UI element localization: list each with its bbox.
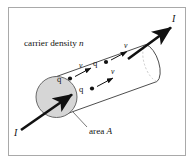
carrier-density-symbol: n xyxy=(79,38,84,48)
area-label: area A xyxy=(89,126,113,136)
current-label-in: I xyxy=(13,127,18,138)
figure-container: carrier density n area A I I q q q v v v xyxy=(0,0,194,168)
carrier-density-text: carrier density xyxy=(24,38,79,48)
charge-label-1: q xyxy=(57,74,62,84)
area-symbol: A xyxy=(106,126,113,136)
current-conductor-diagram: carrier density n area A I I q q q v v v xyxy=(0,0,194,168)
carrier-density-label: carrier density n xyxy=(24,38,84,48)
current-label-out: I xyxy=(171,13,176,24)
charge-label-3: q xyxy=(79,84,84,94)
charge-dot xyxy=(104,60,108,64)
area-text: area xyxy=(89,126,107,136)
charge-dot xyxy=(68,76,72,80)
charge-label-2: q xyxy=(93,58,98,68)
charge-dot xyxy=(90,86,94,90)
